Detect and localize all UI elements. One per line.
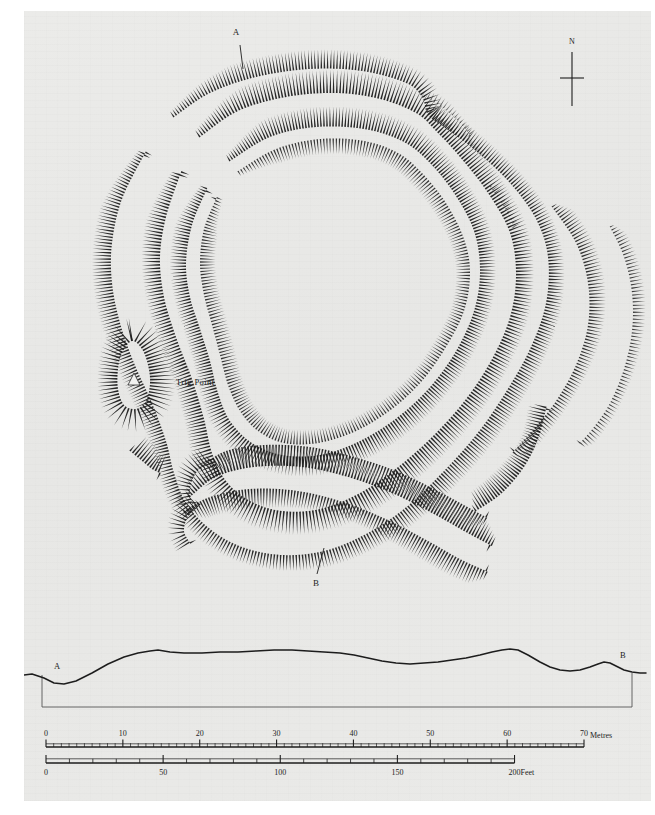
hachure: [271, 116, 278, 135]
hachure: [555, 206, 564, 213]
hachure: [339, 70, 341, 93]
hachure: [549, 272, 565, 274]
hachure: [589, 432, 598, 440]
hachure: [304, 50, 306, 69]
hachure: [210, 113, 218, 124]
hachure: [613, 229, 621, 234]
hachure: [256, 552, 260, 567]
hachure: [299, 491, 302, 508]
hachure: [442, 327, 454, 334]
hachure: [549, 410, 560, 418]
hachure: [378, 146, 384, 161]
hachure: [170, 111, 175, 117]
hachure: [316, 107, 318, 127]
hachure: [552, 204, 557, 208]
hachure: [278, 53, 282, 72]
hachure: [171, 250, 187, 253]
hachure: [200, 268, 216, 269]
hachure: [218, 72, 225, 88]
hachure: [440, 98, 445, 106]
hachure: [269, 424, 276, 438]
hachure: [102, 347, 122, 356]
hachure: [353, 418, 360, 430]
hachure: [263, 489, 265, 508]
hachure: [331, 426, 336, 439]
hachure: [440, 214, 454, 222]
hachure: [170, 366, 187, 374]
hachure: [491, 474, 507, 489]
hachure: [150, 375, 176, 378]
hachure: [419, 448, 434, 464]
hachure: [388, 395, 397, 406]
hachure: [610, 401, 619, 406]
hachure: [296, 512, 298, 535]
hachure: [367, 54, 371, 72]
hachure: [170, 271, 186, 273]
hachure: [290, 490, 293, 508]
hachure: [244, 85, 252, 106]
scale-area: 010203040506070 050100150200 Metres Feet: [24, 711, 651, 781]
hachure: [446, 104, 452, 111]
hachure: [285, 52, 288, 71]
hachure: [485, 564, 489, 571]
hachure: [449, 107, 455, 113]
hachure: [150, 382, 176, 384]
hachure: [448, 231, 462, 237]
hachure: [200, 258, 216, 259]
hachure: [298, 51, 300, 70]
rampart-inner-face: [200, 138, 470, 444]
annexe-south-bank: [183, 489, 489, 583]
hachure: [416, 78, 429, 91]
hachure: [383, 78, 390, 100]
hachure: [585, 338, 600, 343]
hachure: [348, 51, 351, 70]
hachure: [93, 280, 112, 283]
hachure: [282, 445, 284, 463]
hachure: [350, 506, 357, 521]
hachure: [311, 430, 313, 444]
hachure: [329, 138, 330, 154]
hachure: [478, 290, 494, 293]
hachure: [631, 286, 644, 289]
hachure: [412, 455, 427, 472]
hachure: [515, 253, 533, 256]
annexe-north-bank: [199, 445, 489, 527]
hachure: [346, 543, 353, 559]
hachure: [339, 50, 341, 69]
hachure: [536, 333, 552, 340]
hachure: [356, 140, 359, 156]
hachure: [298, 555, 300, 571]
hachure: [138, 406, 154, 413]
hachure: [541, 420, 552, 429]
hachure: [356, 108, 359, 128]
hachure: [589, 306, 605, 308]
hachure: [245, 134, 253, 146]
hachure: [455, 289, 469, 292]
hachure: [320, 139, 322, 155]
hachure: [188, 433, 208, 437]
hachure: [587, 272, 604, 276]
hachure: [296, 72, 300, 95]
hachure: [454, 292, 468, 295]
hachure: [631, 339, 643, 342]
hachure: [352, 71, 355, 94]
hachure: [365, 142, 369, 158]
hachure: [386, 397, 395, 408]
hachure: [317, 429, 320, 443]
hachure: [326, 70, 328, 93]
hachure: [170, 265, 186, 267]
hachure: [479, 284, 495, 286]
hachure: [170, 268, 186, 270]
hachure: [516, 277, 534, 279]
hachure: [586, 335, 601, 339]
metric-tick-label: 30: [273, 729, 281, 738]
north-label: N: [569, 37, 575, 46]
hachure: [376, 404, 384, 415]
hachure: [549, 263, 565, 265]
hachure: [213, 327, 229, 332]
hachure: [280, 555, 282, 571]
hachure: [589, 286, 606, 289]
hachure: [177, 387, 195, 394]
hachure: [626, 261, 639, 265]
profile-frame: [42, 673, 632, 707]
